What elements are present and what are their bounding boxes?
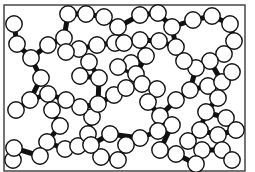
particle <box>164 19 180 35</box>
particle <box>151 33 167 49</box>
particle <box>91 70 107 86</box>
particle <box>118 80 134 96</box>
particle <box>58 92 74 108</box>
particle <box>168 146 184 162</box>
particle <box>224 64 240 80</box>
particle <box>89 37 105 53</box>
particle <box>60 6 76 22</box>
particle <box>52 118 68 134</box>
particle <box>58 44 74 60</box>
particle <box>23 50 39 66</box>
particle <box>150 5 166 21</box>
particle <box>8 102 24 118</box>
particle <box>134 76 150 92</box>
particle <box>222 16 238 32</box>
particle <box>90 96 106 112</box>
particle-network-diagram <box>0 0 255 172</box>
particle <box>110 152 126 168</box>
particle <box>140 94 156 110</box>
particle <box>182 82 198 98</box>
particle <box>150 123 166 139</box>
particle <box>228 122 244 138</box>
particle <box>132 32 148 48</box>
particle <box>138 48 154 64</box>
particle <box>9 36 25 52</box>
particle <box>102 126 118 142</box>
particle <box>188 156 204 172</box>
particle <box>78 6 94 22</box>
particle <box>72 68 88 84</box>
particle <box>96 9 112 25</box>
particle <box>83 137 99 153</box>
particle <box>22 92 38 108</box>
particle <box>204 8 220 24</box>
particles <box>5 5 244 172</box>
particle <box>116 35 132 51</box>
particle <box>168 92 184 108</box>
particle <box>224 152 240 168</box>
particle <box>6 140 22 156</box>
particle <box>110 19 126 35</box>
particle <box>6 16 22 32</box>
particle <box>210 127 226 143</box>
particle <box>33 70 49 86</box>
particle <box>132 7 148 23</box>
particle <box>44 102 60 118</box>
particle <box>210 90 226 106</box>
particle <box>32 148 48 164</box>
particle <box>118 137 134 153</box>
particle <box>176 53 192 69</box>
particle <box>185 12 201 28</box>
particle <box>152 142 168 158</box>
particle <box>40 86 56 102</box>
particle <box>40 37 56 53</box>
particle <box>198 104 214 120</box>
particle <box>110 59 126 75</box>
